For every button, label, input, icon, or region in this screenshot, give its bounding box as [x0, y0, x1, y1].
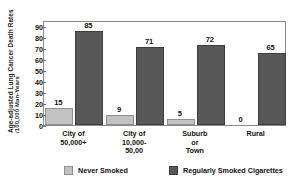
bar-value-label: 5 [166, 110, 194, 118]
bar-value-label: 9 [105, 106, 133, 114]
y-axis-tick-mark [43, 82, 46, 83]
bar [136, 47, 164, 125]
y-axis-tick-labels: 0102030405060708090 [24, 21, 43, 126]
bar-value-label: 0 [227, 116, 255, 124]
bar [258, 53, 286, 125]
y-axis-tick-label: 90 [29, 23, 43, 30]
bar-value-label: 15 [44, 99, 72, 107]
bar [106, 115, 134, 125]
bar [167, 119, 195, 125]
x-axis-category-label: City of 50,000+ [43, 130, 104, 147]
y-axis-tick-mark [43, 93, 46, 94]
y-axis-tick-label: 10 [29, 111, 43, 118]
legend-item-regularly-smoked[interactable]: Regularly Smoked Cigarettes [169, 166, 283, 175]
y-axis-tick-mark [43, 49, 46, 50]
plot-area [43, 21, 286, 126]
chart-legend: Never Smoked Regularly Smoked Cigarettes [0, 166, 297, 180]
legend-label-never-smoked: Never Smoked [78, 166, 128, 175]
y-axis-tick-mark [43, 71, 46, 72]
bar-value-label: 72 [196, 36, 224, 44]
y-axis-tick-mark [43, 115, 46, 116]
y-axis-tick-label: 80 [29, 34, 43, 41]
y-axis-tick-label: 50 [29, 67, 43, 74]
bar [45, 108, 73, 125]
y-axis-title-line1: Age-adjusted Lung Cancer Death Rates [7, 9, 14, 133]
bar [75, 31, 103, 125]
chart-figure: Age-adjusted Lung Cancer Death Rates /10… [0, 0, 297, 188]
x-axis-category-label: Rural [225, 130, 286, 139]
bar-value-label: 65 [257, 44, 285, 52]
y-axis-tick-label: 0 [29, 123, 43, 130]
y-axis-tick-label: 70 [29, 45, 43, 52]
y-axis-tick-label: 20 [29, 100, 43, 107]
y-axis-tick-label: 30 [29, 89, 43, 96]
y-axis-tick-mark [43, 27, 46, 28]
bar [197, 45, 225, 125]
bar-value-label: 85 [74, 22, 102, 30]
y-axis-tick-mark [43, 38, 46, 39]
legend-swatch-icon-regularly-smoked [169, 166, 178, 175]
x-axis-category-label: City of 10,000- 50,00 [104, 130, 165, 156]
y-axis-title-line2: /100,000 Man-Years [14, 76, 20, 133]
y-axis-title: Age-adjusted Lung Cancer Death Rates /10… [0, 0, 22, 140]
y-axis-tick-mark [43, 60, 46, 61]
legend-item-never-smoked[interactable]: Never Smoked [64, 166, 128, 175]
bar-value-label: 71 [135, 38, 163, 46]
y-axis-tick-label: 40 [29, 78, 43, 85]
legend-label-regularly-smoked: Regularly Smoked Cigarettes [183, 166, 283, 175]
x-axis-category-label: Suburb or Town [165, 130, 226, 156]
legend-swatch-icon-never-smoked [64, 166, 73, 175]
y-axis-tick-mark [43, 126, 46, 127]
y-axis-tick-label: 60 [29, 56, 43, 63]
